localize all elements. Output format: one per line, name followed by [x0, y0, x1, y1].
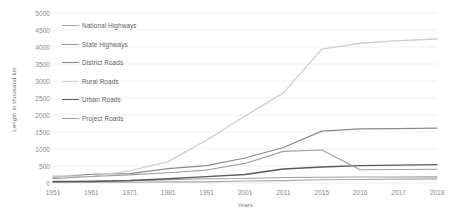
- legend-swatch-icon: [62, 99, 79, 100]
- legend-item[interactable]: State Highways: [62, 41, 128, 48]
- y-axis-tick-label: 3000: [22, 78, 50, 85]
- x-axis-title: Years: [237, 201, 253, 208]
- legend-label: State Highways: [82, 41, 128, 48]
- legend-swatch-icon: [62, 81, 79, 82]
- y-axis-tick-label: 500: [22, 163, 50, 170]
- legend-swatch-icon: [62, 25, 79, 26]
- y-axis-tick-label: 3500: [22, 61, 50, 68]
- x-axis-tick-label: 2015: [314, 189, 329, 196]
- legend-item[interactable]: National Highways: [62, 22, 137, 29]
- legend-swatch-icon: [62, 118, 79, 119]
- legend-item[interactable]: District Roads: [62, 59, 123, 66]
- legend-swatch-icon: [62, 62, 79, 63]
- y-axis-tick-label: 0: [22, 180, 50, 187]
- legend-label: District Roads: [82, 59, 123, 66]
- y-axis-tick-labels: 0500100015002000250030003500400045005000: [20, 0, 50, 221]
- y-axis-tick-label: 5000: [22, 10, 50, 17]
- x-axis-tick-label: 2001: [238, 189, 253, 196]
- x-axis-tick-label: 1971: [122, 189, 137, 196]
- legend-item[interactable]: Project Roads: [62, 115, 123, 122]
- legend-swatch-icon: [62, 44, 79, 45]
- y-axis-tick-label: 4000: [22, 44, 50, 51]
- y-axis-tick-label: 2500: [22, 95, 50, 102]
- legend-label: Urban Roads: [82, 96, 121, 103]
- x-axis-tick-label: 1991: [199, 189, 214, 196]
- plot-area: [0, 0, 449, 221]
- x-axis-tick-label: 2011: [276, 189, 290, 196]
- legend-item[interactable]: Urban Roads: [62, 96, 121, 103]
- x-axis-tick-label: 2016: [353, 189, 368, 196]
- legend-item[interactable]: Rural Roads: [62, 78, 119, 85]
- legend-label: Rural Roads: [82, 78, 119, 85]
- legend-label: National Highways: [82, 22, 137, 29]
- legend-label: Project Roads: [82, 115, 123, 122]
- x-axis-tick-label: 2018: [430, 189, 445, 196]
- y-axis-tick-label: 1500: [22, 129, 50, 136]
- x-axis-tick-label: 2017: [391, 189, 406, 196]
- y-axis-title: Length in thousand km: [10, 41, 17, 159]
- x-axis-tick-label: 1981: [161, 189, 176, 196]
- y-axis-tick-label: 4500: [22, 27, 50, 34]
- y-axis-tick-label: 2000: [22, 112, 50, 119]
- y-axis-tick-label: 1000: [22, 146, 50, 153]
- x-axis-tick-label: 1951: [46, 189, 61, 196]
- x-axis-tick-label: 1961: [84, 189, 99, 196]
- line-chart: Length in thousand km 050010001500200025…: [0, 0, 449, 221]
